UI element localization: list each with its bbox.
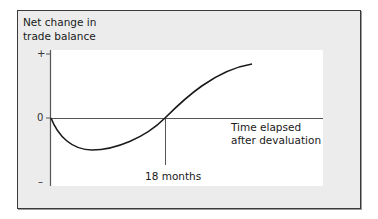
- x-axis-label-line2: after devaluation: [231, 134, 321, 147]
- marker-18-months-label: 18 months: [145, 170, 201, 182]
- j-curve-line: [51, 64, 252, 150]
- x-axis-label-line1: Time elapsed: [231, 121, 321, 134]
- chart-svg: [0, 0, 378, 219]
- x-axis-label: Time elapsed after devaluation: [231, 121, 321, 147]
